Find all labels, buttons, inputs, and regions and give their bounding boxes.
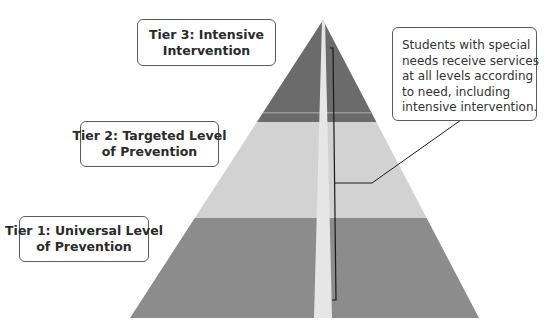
tier1-label-box: Tier 1: Universal Level of Prevention xyxy=(19,216,149,262)
tier2-label-line1: Tier 2: Targeted Level xyxy=(73,128,227,144)
callout-line: to need, including xyxy=(402,85,530,101)
tier2-label-line2: of Prevention xyxy=(102,144,197,160)
callout-line: Students with special xyxy=(402,38,530,54)
callout-line: at all levels according xyxy=(402,69,530,85)
tier3-label-line1: Tier 3: Intensive xyxy=(149,27,264,43)
tier3-label-box: Tier 3: Intensive Intervention xyxy=(137,19,276,66)
callout-line: needs receive services xyxy=(402,54,530,70)
tier2-label-box: Tier 2: Targeted Level of Prevention xyxy=(80,121,219,167)
tier1-label-line1: Tier 1: Universal Level xyxy=(5,223,163,239)
tier1-label-line2: of Prevention xyxy=(36,239,131,255)
special-needs-callout-box: Students with special needs receive serv… xyxy=(392,27,537,121)
rti-pyramid-diagram: Tier 3: Intensive Intervention Tier 2: T… xyxy=(0,0,556,333)
tier3-label-line2: Intervention xyxy=(163,43,250,59)
callout-line: intensive intervention. xyxy=(402,100,530,116)
